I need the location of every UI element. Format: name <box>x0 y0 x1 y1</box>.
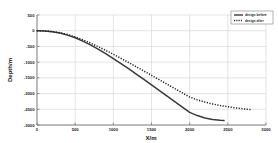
x-tick-label-2: 1000 <box>109 127 119 132</box>
y-tick-label-5: -2000 <box>24 91 35 96</box>
y-tick-label-3: -1000 <box>24 60 35 65</box>
y-axis-title: Depth/m <box>7 58 13 82</box>
legend-label-1: design after <box>245 19 264 23</box>
y-tick-label-6: -2500 <box>24 107 35 112</box>
x-tick-label-1: 500 <box>72 127 80 132</box>
x-tick-label-4: 2000 <box>185 127 195 132</box>
legend-label-0: design before <box>245 13 267 17</box>
chart-legend: design before design after <box>231 11 273 24</box>
y-tick-label-7: -3000 <box>24 123 35 128</box>
borehole-trajectory-chart: 5000-500-1000-1500-2000-2500-3000 050010… <box>0 0 278 143</box>
x-tick-label-6: 3000 <box>261 127 271 132</box>
y-tick-label-2: -500 <box>26 44 35 49</box>
y-tick-label-0: 500 <box>28 13 36 18</box>
chart-figure: 5000-500-1000-1500-2000-2500-3000 050010… <box>0 0 278 143</box>
x-tick-label-5: 2500 <box>223 127 233 132</box>
y-tick-label-4: -1500 <box>24 75 35 80</box>
x-tick-label-3: 1500 <box>147 127 157 132</box>
x-axis-title: X/m <box>145 135 156 141</box>
